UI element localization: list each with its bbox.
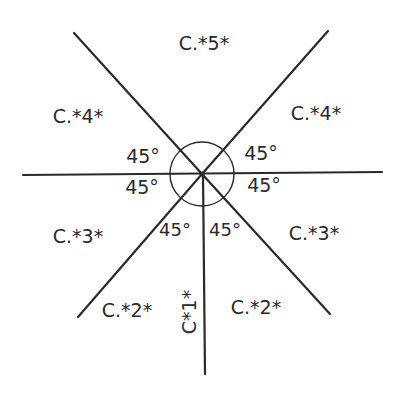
sector-label-upper-left: C.*4* bbox=[53, 105, 103, 127]
sector-label-lower-right: C.*3* bbox=[289, 222, 339, 244]
sector-diagram: C.*5* C.*4* C.*4* C.*3* C.*3* C.*2* C.*2… bbox=[0, 0, 406, 394]
angle-label-lower-left: 45° bbox=[159, 219, 191, 240]
angle-label-upper-left: 45° bbox=[126, 145, 160, 167]
sector-label-upper-right: C.*4* bbox=[291, 102, 341, 124]
angle-label-upper-right: 45° bbox=[244, 142, 278, 164]
angle-label-mid-right: 45° bbox=[247, 174, 281, 196]
sector-label-bottom-right: C.*2* bbox=[231, 296, 281, 318]
sector-label-lower-left: C.*3* bbox=[53, 225, 103, 247]
angle-label-mid-left: 45° bbox=[125, 176, 159, 198]
angle-label-lower-right: 45° bbox=[209, 219, 241, 240]
sector-label-top: C.*5* bbox=[179, 32, 229, 54]
sector-label-bottom-vertical: C*1* bbox=[178, 290, 200, 334]
center-point bbox=[200, 172, 205, 177]
line-vertical-down bbox=[203, 174, 205, 374]
sector-label-bottom-left: C.*2* bbox=[102, 299, 152, 321]
